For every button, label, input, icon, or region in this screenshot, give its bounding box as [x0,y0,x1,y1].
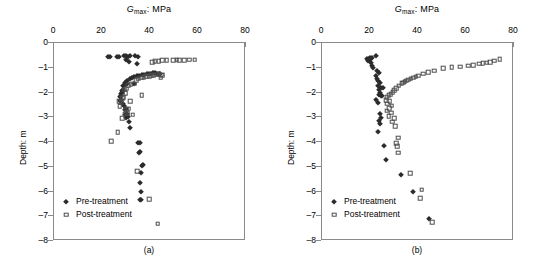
marker-pre-treatment [376,92,382,98]
marker-post-treatment [418,196,423,201]
marker-pre-treatment [125,114,131,120]
marker-post-treatment [432,68,437,73]
marker-pre-treatment [373,53,379,59]
marker-pre-treatment [146,71,152,77]
x-axis-title: Gmax: MPa [321,4,513,14]
panel-caption-a: (a) [53,245,245,255]
plot-frame: Pre-treatmentPost-treatment [53,42,245,240]
marker-pre-treatment [135,140,141,146]
marker-pre-treatment [376,87,382,93]
marker-pre-treatment [136,150,142,156]
marker-post-treatment [155,221,160,226]
x-tick-label: 40 [405,25,429,35]
y-tick-label: –8 [294,235,316,245]
marker-post-treatment [401,80,406,85]
marker-pre-treatment [116,54,122,60]
y-tick-label: –7 [26,210,48,220]
x-tick-label: 0 [309,25,333,35]
marker-post-treatment [147,197,152,202]
marker-post-treatment [392,116,397,121]
marker-post-treatment [126,83,131,88]
y-tick-label: –7 [294,210,316,220]
marker-pre-treatment [410,189,416,195]
marker-post-treatment [466,63,471,68]
marker-pre-treatment [107,54,113,60]
y-tick-label: –6 [294,186,316,196]
y-tick-label: –1 [294,62,316,72]
y-tick-label: –4 [26,136,48,146]
marker-pre-treatment [141,72,147,78]
marker-post-treatment [394,86,399,91]
chart-panel-b: Gmax: MPa0204060800–1–2–3–4–5–6–7–8Depth… [268,0,536,264]
marker-pre-treatment [135,54,141,60]
marker-post-treatment [132,81,137,86]
marker-post-treatment [134,78,139,83]
marker-post-treatment [395,144,400,149]
marker-post-treatment [385,102,390,107]
marker-post-treatment [449,65,454,70]
marker-post-treatment [192,58,197,63]
marker-pre-treatment [123,106,129,112]
marker-pre-treatment [137,197,143,203]
y-tick-label: 0 [294,37,316,47]
marker-pre-treatment [134,73,140,79]
legend-label: Pre-treatment [76,196,128,206]
marker-pre-treatment [124,78,130,84]
x-tick-label: 0 [41,25,65,35]
marker-pre-treatment [152,70,158,76]
marker-post-treatment [187,58,192,63]
y-tick-label: –5 [26,161,48,171]
marker-pre-treatment [398,172,404,178]
marker-post-treatment [125,111,130,116]
marker-pre-treatment [126,119,132,125]
marker-pre-treatment [121,103,127,109]
marker-post-treatment [175,58,180,63]
marker-pre-treatment [117,94,123,100]
x-axis-title: Gmax: MPa [53,4,245,14]
marker-post-treatment [441,66,446,71]
marker-post-treatment [150,60,155,65]
marker-post-treatment [396,151,401,156]
marker-pre-treatment [122,79,128,85]
marker-pre-treatment [377,80,383,86]
marker-pre-treatment [381,143,387,149]
marker-post-treatment [421,71,426,76]
marker-pre-treatment [138,170,144,176]
marker-pre-treatment [114,54,120,60]
chart-legend: Pre-treatmentPost-treatment [62,195,132,221]
marker-pre-treatment [154,71,160,77]
marker-post-treatment [136,77,141,82]
marker-pre-treatment [364,56,370,62]
chart-panel-a: Gmax: MPa0204060800–1–2–3–4–5–6–7–8Depth… [0,0,268,264]
marker-pre-treatment [137,149,143,155]
y-tick-label: –3 [294,111,316,121]
marker-pre-treatment [124,111,130,117]
marker-post-treatment [458,64,463,69]
legend-item: Pre-treatment [62,195,132,208]
marker-post-treatment [332,212,337,217]
marker-post-treatment [123,111,128,116]
x-tick-label: 80 [233,25,257,35]
marker-post-treatment [147,74,152,79]
marker-pre-treatment [375,82,381,88]
plot-area: Pre-treatmentPost-treatment [322,43,512,239]
x-tick-label: 60 [185,25,209,35]
y-tick-label: –2 [26,87,48,97]
marker-pre-treatment [120,83,126,89]
legend-label: Post-treatment [344,209,400,219]
marker-pre-treatment [365,55,371,61]
marker-pre-treatment [118,97,124,103]
marker-pre-treatment [366,57,372,63]
marker-pre-treatment [122,82,128,88]
marker-post-treatment [160,58,165,63]
marker-post-treatment [153,59,158,64]
marker-post-treatment [135,169,140,174]
marker-post-treatment [420,187,425,192]
marker-pre-treatment [369,63,375,69]
legend-label: Pre-treatment [344,196,396,206]
marker-pre-treatment [121,53,127,59]
marker-pre-treatment [138,197,144,203]
marker-post-treatment [411,75,416,80]
marker-pre-treatment [131,81,137,87]
marker-pre-treatment [118,93,124,99]
